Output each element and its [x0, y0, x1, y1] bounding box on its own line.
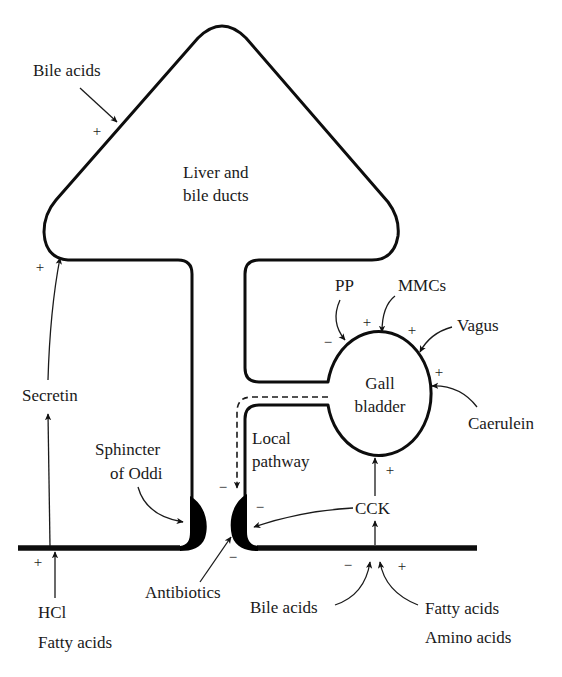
sign-vagus: + [408, 322, 416, 338]
sign-antibiotics: − [229, 549, 237, 565]
bile-acids-liver-label: Bile acids [33, 61, 101, 80]
secretin-label: Secretin [22, 386, 78, 405]
antibiotics-label: Antibiotics [145, 583, 221, 602]
sphincter-label-line2: of Oddi [110, 464, 163, 483]
sign-caerulein: + [435, 364, 443, 380]
sign-bile-acids-duodenum: − [344, 557, 352, 573]
sign-cck-sphincter: − [256, 499, 264, 515]
sign-pp: − [324, 334, 332, 350]
sphincter-right [231, 494, 258, 551]
gallbladder-label-line2: bladder [355, 397, 406, 416]
sign-fatty-acids-duodenum: + [398, 558, 406, 574]
gallbladder-label-line1: Gall [365, 374, 395, 393]
arrow-pp-to-gallbladder [336, 300, 345, 340]
fatty-acids-right-label: Fatty acids [425, 599, 499, 618]
arrow-caerulein-to-gallbladder [432, 386, 477, 407]
sign-secretin-liver: + [36, 259, 44, 275]
sphincter-left [180, 496, 207, 551]
vagus-label: Vagus [457, 316, 499, 335]
arrow-sphincter-label [138, 487, 183, 522]
pp-label: PP [335, 276, 354, 295]
arrow-duodenum-to-secretin [48, 414, 50, 546]
cck-label: CCK [355, 499, 391, 518]
liver-label-line2: bile ducts [183, 186, 249, 205]
arrow-antibiotics-to-sphincter [200, 537, 231, 582]
mmcs-label: MMCs [398, 276, 446, 295]
sign-bile-acids-liver: + [93, 123, 101, 139]
arrow-vagus-to-gallbladder [420, 327, 452, 352]
arrow-secretin-to-liver [48, 258, 60, 380]
hcl-label: HCl [38, 603, 67, 622]
fatty-acids-left-label: Fatty acids [38, 633, 112, 652]
arrow-cck-to-sphincter [254, 508, 353, 527]
arrow-mmcs-to-gallbladder [382, 296, 395, 332]
arrow-bile-acids-to-liver [80, 88, 117, 122]
amino-acids-label: Amino acids [425, 628, 511, 647]
bile-acids-duodenum-label: Bile acids [250, 598, 318, 617]
arrow-bile-acids-to-duodenum [335, 562, 370, 605]
sign-mmcs: + [363, 314, 371, 330]
local-pathway-label-line1: Local [252, 429, 291, 448]
liver-duct-gallbladder-outline [44, 26, 431, 548]
sign-local-pathway: − [219, 479, 227, 495]
sign-cck-gallbladder: + [386, 462, 394, 478]
bile-secretion-regulation-diagram: Liver and bile ducts Gall bladder Sphinc… [0, 0, 562, 677]
liver-label-line1: Liver and [183, 163, 249, 182]
sign-hcl: + [34, 554, 42, 570]
caerulein-label: Caerulein [468, 414, 535, 433]
local-pathway-label-line2: pathway [252, 452, 310, 471]
sphincter-label-line1: Sphincter [95, 440, 160, 459]
